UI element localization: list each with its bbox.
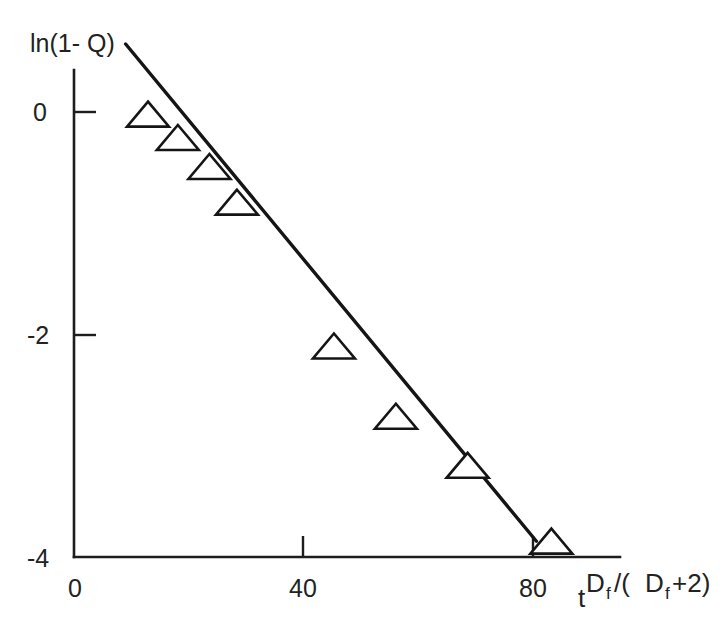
- y-tick-label-0: 0: [33, 98, 47, 126]
- y-tick-label-minus2: -2: [27, 321, 49, 349]
- y-axis-label: ln(1- Q): [30, 29, 115, 57]
- x-axis-label-base: t: [578, 583, 586, 613]
- x-tick-label-0: 0: [68, 574, 82, 602]
- x-tick-label-80: 80: [519, 574, 547, 602]
- figure-background: [0, 0, 728, 640]
- x-tick-label-40: 40: [289, 574, 317, 602]
- chart-figure: ln(1- Q) 0 -2 -4 0 40 80 t D f /( D f +2…: [0, 0, 728, 640]
- x-axis-label-exponent-mid: /(: [614, 568, 630, 598]
- x-axis-label-exponent-d2: D: [645, 568, 664, 598]
- x-axis-label-exponent-f1: f: [606, 584, 611, 603]
- x-axis-label-exponent-d1: D: [586, 568, 605, 598]
- x-axis-label-exponent-tail: +2): [672, 568, 710, 598]
- x-axis-label-exponent-f2: f: [665, 584, 670, 603]
- y-tick-label-minus4: -4: [27, 544, 49, 572]
